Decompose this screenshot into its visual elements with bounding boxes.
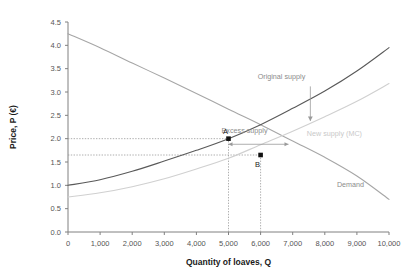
y-tick-label: 4.5: [51, 18, 61, 27]
curve-demand: [68, 34, 389, 200]
x-axis-title: Quantity of loaves, Q: [186, 257, 271, 267]
x-tick-label: 1,000: [91, 239, 110, 248]
x-tick-label: 6,000: [251, 239, 270, 248]
series-labels-group: DemandOriginal supplyNew supply (MC): [258, 72, 364, 189]
x-tick-label: 2,000: [123, 239, 142, 248]
y-tick-label: 0.5: [51, 204, 61, 213]
y-tick-label: 2.0: [51, 134, 61, 143]
guide-lines-group: [68, 139, 261, 232]
series-label-original-supply: Original supply: [258, 72, 306, 81]
x-tick-label: 7,000: [283, 239, 302, 248]
x-tick-label: 9,000: [348, 239, 367, 248]
x-tick-label: 5,000: [219, 239, 238, 248]
y-tick-label: 0.0: [51, 228, 61, 237]
data-point-label-a: A: [223, 127, 228, 136]
x-tick-label: 10,000: [378, 239, 401, 248]
series-label-new-supply-mc: New supply (MC): [307, 129, 362, 138]
x-tick-label: 8,000: [315, 239, 334, 248]
y-tick-label: 3.0: [51, 88, 61, 97]
data-point-label-b: B: [255, 160, 260, 169]
y-tick-label: 1.5: [51, 158, 61, 167]
x-tick-label: 0: [66, 239, 70, 248]
excess-supply-arrowhead: [285, 142, 289, 146]
excess-supply-label: Excess supply: [222, 126, 268, 135]
y-tick-label: 2.5: [51, 111, 61, 120]
data-point-b: [258, 153, 263, 158]
y-tick-label: 3.5: [51, 64, 61, 73]
supply-shift-arrowhead: [308, 116, 313, 121]
series-group: [68, 34, 389, 200]
supply-demand-chart: 0.00.51.01.52.02.53.03.54.04.501,0002,00…: [0, 0, 414, 280]
chart-container: 0.00.51.01.52.02.53.03.54.04.501,0002,00…: [0, 0, 414, 280]
x-tick-label: 3,000: [155, 239, 174, 248]
x-tick-label: 4,000: [187, 239, 206, 248]
series-label-demand: Demand: [337, 180, 364, 189]
y-tick-label: 1.0: [51, 181, 61, 190]
y-axis-title: Price, P (€): [8, 105, 18, 149]
excess-supply-arrowhead: [229, 142, 233, 146]
annotations-group: Excess supply: [222, 86, 313, 146]
data-point-a: [226, 136, 231, 141]
y-tick-label: 4.0: [51, 41, 61, 50]
